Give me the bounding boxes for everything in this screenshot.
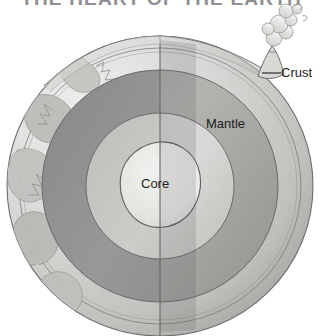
label-crust: Crust xyxy=(281,65,312,80)
label-mantle: Mantle xyxy=(206,116,245,131)
earth-cutaway-diagram: THE HEART OF THE EARTH Crust Mantle Core xyxy=(0,0,323,336)
label-core: Core xyxy=(141,176,169,191)
smoke-plume-icon xyxy=(262,4,307,46)
diagram-canvas xyxy=(0,0,323,336)
